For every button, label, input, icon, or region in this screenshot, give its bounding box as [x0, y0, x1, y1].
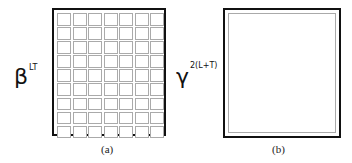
- grid-cell: [57, 27, 71, 40]
- grid-cell: [135, 55, 149, 68]
- grid-cell: [119, 27, 133, 40]
- grid-cell: [104, 13, 118, 26]
- grid-cell: [104, 69, 118, 82]
- grid-cell: [119, 41, 133, 54]
- caption-b: (b): [272, 143, 285, 155]
- grid-cell: [57, 112, 71, 125]
- grid-cell: [88, 55, 102, 68]
- grid-cell: [135, 69, 149, 82]
- grid-cell: [150, 69, 164, 82]
- grid-cell: [88, 112, 102, 125]
- grid-cell: [73, 55, 87, 68]
- grid-cell: [57, 41, 71, 54]
- grid-cell: [57, 55, 71, 68]
- grid-cell: [150, 98, 164, 111]
- grid-cell: [150, 83, 164, 96]
- gamma-label: γ2(L+T): [176, 64, 217, 89]
- grid-cell: [88, 83, 102, 96]
- grid-cell: [135, 83, 149, 96]
- border-panel-b: [223, 8, 341, 138]
- grid-cell: [119, 98, 133, 111]
- gamma-symbol: γ: [176, 64, 189, 89]
- gamma-exponent: 2(L+T): [190, 61, 217, 70]
- grid-cell: [57, 126, 71, 139]
- grid-cell: [73, 69, 87, 82]
- grid-cell: [135, 27, 149, 40]
- grid-cell: [119, 126, 133, 139]
- caption-a: (a): [101, 143, 113, 155]
- grid-cell: [119, 55, 133, 68]
- grid-cell: [88, 41, 102, 54]
- beta-symbol: β: [14, 64, 28, 89]
- grid-cell: [88, 98, 102, 111]
- grid-cell: [73, 13, 87, 26]
- grid-cell: [135, 112, 149, 125]
- grid-cell: [119, 13, 133, 26]
- grid-cell: [135, 41, 149, 54]
- grid-cell: [88, 27, 102, 40]
- grid-cell: [150, 126, 164, 139]
- beta-label: βLT: [14, 64, 37, 89]
- grid-cell: [104, 55, 118, 68]
- grid-cell: [73, 83, 87, 96]
- grid-cell: [119, 83, 133, 96]
- grid-cell: [88, 13, 102, 26]
- inner-border: [228, 13, 336, 133]
- grid-cell: [150, 41, 164, 54]
- grid-cell: [150, 27, 164, 40]
- grid-cell: [73, 41, 87, 54]
- grid-panel-a: [52, 8, 166, 136]
- grid-cell: [135, 13, 149, 26]
- grid-cell: [73, 98, 87, 111]
- grid-cell: [73, 126, 87, 139]
- grid-cell: [150, 112, 164, 125]
- grid-cell: [104, 98, 118, 111]
- grid-cell: [88, 69, 102, 82]
- grid-cell: [104, 112, 118, 125]
- grid-cell: [104, 41, 118, 54]
- grid-cell: [150, 13, 164, 26]
- grid-cell: [104, 83, 118, 96]
- grid-cell: [119, 69, 133, 82]
- grid-cell: [104, 126, 118, 139]
- grid-cell: [135, 126, 149, 139]
- beta-exponent: LT: [29, 63, 37, 72]
- grid-cell: [57, 83, 71, 96]
- cell-grid: [57, 13, 164, 138]
- grid-cell: [73, 112, 87, 125]
- grid-cell: [135, 98, 149, 111]
- grid-cell: [88, 126, 102, 139]
- grid-cell: [119, 112, 133, 125]
- grid-cell: [73, 27, 87, 40]
- grid-cell: [104, 27, 118, 40]
- grid-cell: [150, 55, 164, 68]
- grid-cell: [57, 98, 71, 111]
- grid-cell: [57, 13, 71, 26]
- grid-cell: [57, 69, 71, 82]
